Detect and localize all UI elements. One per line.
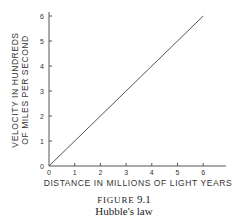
y-tick-label: 3 (40, 88, 44, 95)
y-axis-label-line1: VELOCITY IN HUNDREDS (10, 32, 20, 147)
data-line (49, 16, 203, 166)
y-tick-label: 4 (40, 63, 44, 70)
y-axis-label-line2: OF MILES PER SECOND (20, 35, 30, 145)
x-tick-label: 6 (201, 169, 205, 176)
x-tick-label: 5 (176, 169, 180, 176)
figure-caption: FIGURE 9.1 (0, 193, 248, 205)
y-tick-label: 1 (40, 138, 44, 145)
y-axis-ticks: 0123456 (40, 13, 52, 170)
y-tick-label: 5 (40, 38, 44, 45)
x-tick-label: 0 (47, 169, 51, 176)
figure-label: FIGURE (97, 195, 134, 205)
chart-title: Hubble's law (0, 205, 248, 217)
y-tick-label: 6 (40, 13, 44, 20)
x-tick-label: 4 (150, 169, 154, 176)
x-tick-label: 1 (73, 169, 77, 176)
y-tick-label: 2 (40, 113, 44, 120)
x-tick-label: 3 (124, 169, 128, 176)
figure-number: 9.1 (137, 193, 151, 205)
y-tick-label: 0 (40, 163, 44, 170)
hubble-chart: 0123456 0123456 VELOCITY IN HUNDREDS OF … (0, 0, 248, 192)
x-axis-ticks: 0123456 (47, 163, 205, 176)
x-tick-label: 2 (98, 169, 102, 176)
x-axis-label: DISTANCE IN MILLIONS OF LIGHT YEARS (44, 178, 233, 188)
